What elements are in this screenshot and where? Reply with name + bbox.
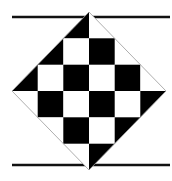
checker-cell [89,91,115,118]
checker-cell [89,65,115,92]
checker-cell [63,117,89,144]
checker-cell [89,38,115,65]
checker-cell [38,91,64,118]
checkerboard-diamond-figure [0,0,172,181]
checker-cell [63,65,89,92]
checker-cell [115,65,141,92]
checker-cell [115,91,141,118]
checker-cell [63,38,89,65]
checker-cell [63,91,89,118]
checker-cell [38,65,64,92]
checker-cell [89,117,115,144]
